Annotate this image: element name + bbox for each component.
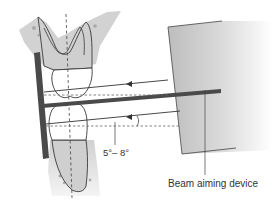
beam-aiming-device-label: Beam aiming device [168,178,258,189]
angle-label: 5°– 8° [103,147,129,158]
beam-aiming-device [168,21,272,154]
maxillary-tooth [38,17,92,98]
dental-radiography-diagram [0,0,272,202]
